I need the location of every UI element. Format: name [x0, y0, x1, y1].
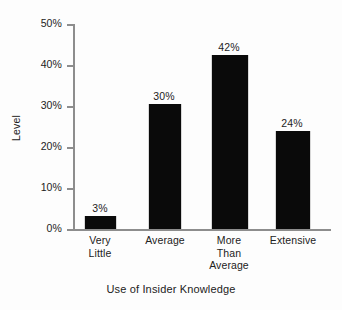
x-tick-label-line: Little: [74, 247, 126, 260]
y-axis-tick: [67, 188, 74, 190]
bar-value-label-average: 30%: [143, 90, 185, 102]
x-tick-label-line: Extensive: [262, 234, 324, 247]
y-axis-tick-label: 10%: [18, 182, 62, 193]
x-tick-label-line: Average: [202, 259, 256, 272]
bar-value-label-extensive: 24%: [271, 117, 313, 129]
bar-value-label-more-than-average: 42%: [208, 41, 250, 53]
x-tick-label-line: More: [202, 234, 256, 247]
y-axis-tick-label: 50%: [18, 18, 62, 29]
bar-extensive: [275, 131, 311, 229]
y-axis-tick-label: 40%: [18, 59, 62, 70]
bar-chart-figure: Level 0% 10% 20% 30% 40% 50% 3% 30% 42% …: [0, 0, 342, 310]
y-axis-tick: [67, 65, 74, 67]
x-tick-label-line: Very: [74, 234, 126, 247]
y-axis-tick: [67, 24, 74, 26]
x-axis-title: Use of Insider Knowledge: [0, 283, 342, 295]
bar-average: [148, 104, 182, 229]
y-axis-tick-label: 0%: [18, 223, 62, 234]
x-axis-line: [73, 229, 331, 231]
y-axis-line: [73, 24, 75, 230]
bar-value-label-very-little: 3%: [79, 202, 121, 214]
y-axis-tick-label: 20%: [18, 141, 62, 152]
bar-very-little: [84, 216, 117, 229]
x-tick-label-line: Than: [202, 247, 256, 260]
x-axis-tick-label-more-than-average: More Than Average: [202, 234, 256, 272]
x-axis-tick-label-very-little: Very Little: [74, 234, 126, 259]
y-axis-tick: [67, 147, 74, 149]
y-axis-tick: [67, 106, 74, 108]
x-tick-label-line: Average: [136, 234, 194, 247]
bar-more-than-average: [211, 55, 249, 229]
y-axis-tick-label: 30%: [18, 100, 62, 111]
x-axis-tick-label-average: Average: [136, 234, 194, 247]
x-axis-tick-label-extensive: Extensive: [262, 234, 324, 247]
